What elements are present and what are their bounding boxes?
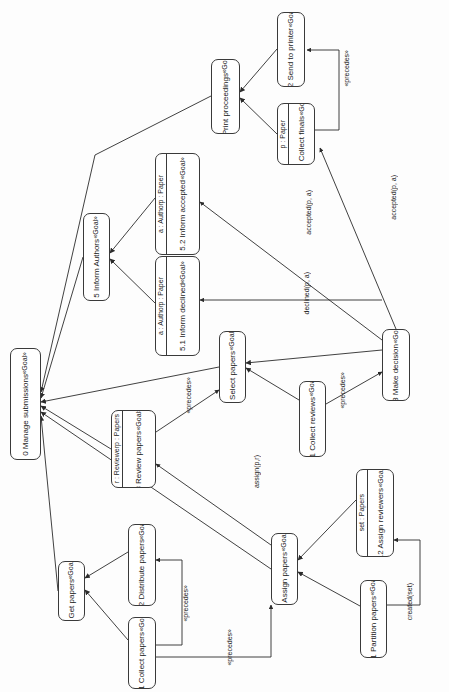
node-title: 5 Inform Authors <box>92 239 101 298</box>
goal-node-4-1-collect-reviews[interactable]: «Goal» 4.1 Collect reviews <box>299 381 326 457</box>
goal-node-2-2-assign-reviewers[interactable]: «Goal» 2.2 Assign reviewers set : Papers <box>356 469 394 557</box>
node-title: 4.1 Collect reviews <box>308 397 317 457</box>
goal-node-6-2-send-to-printer[interactable]: «Goal» 6.2 Send to printer <box>277 12 305 87</box>
node-attributes: p : Paper a : Author <box>156 154 167 254</box>
node-stereotype: «Goal» <box>392 329 400 344</box>
node-title: 2.1 Partition papers <box>369 596 378 658</box>
node-attribute: a : Author <box>157 305 165 335</box>
node-stereotype: «Goal» <box>138 524 146 539</box>
edge-accepted-to-g52 <box>200 202 382 340</box>
diagram-canvas: «Goal» 0 Manage submissions «Goal» 5 Inf… <box>0 0 449 692</box>
node-stereotype: «Goal» <box>138 617 146 632</box>
edge-g22-to-g2 <box>298 500 356 560</box>
edge-label-precedes-1-1-2: «precedes» <box>226 629 233 666</box>
node-header: «Goal» 6.2 Send to printer <box>278 13 304 86</box>
node-stereotype: «Goal» <box>21 352 29 375</box>
node-attribute: p : Paper <box>279 120 287 148</box>
node-stereotype: «Goal» <box>298 103 306 116</box>
node-stereotype: «Goal» <box>67 561 75 579</box>
node-attribute: p : Paper <box>157 175 165 203</box>
goal-node-1-1-collect-papers[interactable]: «Goal» 1.1 Collect papers <box>128 617 156 689</box>
goal-node-2-assign-papers[interactable]: «Goal» 2 Assign papers <box>271 533 298 605</box>
edge-label-precedes-1-1-1-2: «precedes» <box>182 585 189 622</box>
goal-node-1-2-distribute-papers[interactable]: «Goal» 1.2 Distribute papers <box>128 524 156 606</box>
edge-g4-to-g0 <box>41 367 219 402</box>
node-stereotype: «Goal» <box>377 469 385 488</box>
goal-node-6-print-proceedings[interactable]: «Goal» 6 Print proceedings <box>211 59 240 134</box>
goal-node-6-1-collect-finals[interactable]: «Goal» 6.1 Collect finals p : Paper <box>277 103 315 165</box>
goal-node-5-inform-authors[interactable]: «Goal» 5 Inform Authors <box>83 213 110 301</box>
goal-node-4-select-papers[interactable]: «Goal» 4 Select papers <box>219 331 246 403</box>
edge-label-precedes-4-1-4-3: «precedes» <box>339 372 346 409</box>
edge-g61-to-g6 <box>240 98 277 134</box>
edge-g52-to-g5 <box>110 198 155 253</box>
edge-g2-to-g0 <box>41 412 271 569</box>
node-header: «Goal» 5 Inform Authors <box>84 214 109 300</box>
edge-label-declined-to-5-1: declined(p, a) <box>303 272 310 314</box>
node-stereotype: «Goal» <box>221 59 229 73</box>
node-title: 4.3 Make decision <box>391 344 400 401</box>
goal-node-5-2-inform-accepted[interactable]: «Goal» 5.2 Inform accepted p : Paper a :… <box>155 153 200 255</box>
node-stereotype: «Goal» <box>280 533 288 552</box>
node-header: «Goal» 4.3 Make decision <box>383 330 409 400</box>
node-header: «Goal» 3 Review papers <box>123 411 155 487</box>
goal-node-2-1-partition-papers[interactable]: «Goal» 2.1 Partition papers <box>360 580 387 658</box>
node-title: 1.2 Distribute papers <box>137 539 146 606</box>
node-title: 2.2 Assign reviewers <box>376 488 385 557</box>
node-header: «Goal» 5.2 Inform accepted <box>167 154 199 254</box>
node-title: 1.1 Collect papers <box>137 632 146 689</box>
edge-label-created-set: created(set) <box>406 583 413 620</box>
edge-label-precedes-6-1-6-2: «precedes» <box>343 50 350 87</box>
node-header: «Goal» 4 Select papers <box>220 332 245 402</box>
edge-g12-to-g1 <box>85 552 128 578</box>
edge-g41-to-g4 <box>246 368 299 400</box>
node-title: 6.1 Collect finals <box>297 116 306 165</box>
node-stereotype: «Goal» <box>179 261 187 284</box>
node-header: «Goal» 6.1 Collect finals <box>289 104 314 164</box>
goal-node-5-1-inform-declined[interactable]: «Goal» 5.1 Inform declined p : Paper a :… <box>155 256 200 356</box>
node-attributes: set : Papers <box>357 470 368 556</box>
node-title: 3 Review papers <box>134 431 143 489</box>
goal-node-4-3-make-decision[interactable]: «Goal» 4.3 Make decision <box>382 329 410 401</box>
node-header: «Goal» 1.2 Distribute papers <box>129 525 155 605</box>
node-title: 2 Assign papers <box>280 552 289 605</box>
node-header: «Goal» 2 Assign papers <box>272 534 297 604</box>
edge-label-accepted-to-5-2: accepted(p, a) <box>305 190 312 235</box>
edge-precedes-g11-g12 <box>156 560 182 645</box>
goal-node-0-manage-submissions[interactable]: «Goal» 0 Manage submissions <box>10 348 41 460</box>
edge-g21-to-g2 <box>298 572 360 606</box>
node-attributes: p : Paper a : Author <box>156 257 167 355</box>
node-title: 1 Get papers <box>67 579 76 621</box>
node-title: 6 Print proceedings <box>221 73 230 134</box>
goal-node-1-get-papers[interactable]: «Goal» 1 Get papers <box>58 561 85 621</box>
node-header: «Goal» 2.2 Assign reviewers <box>368 470 393 556</box>
goal-node-3-review-papers[interactable]: «Goal» 3 Review papers p : Papers r : Re… <box>111 410 156 488</box>
node-title: 6.2 Send to printer <box>286 28 295 87</box>
node-attribute: set : Papers <box>358 494 366 531</box>
edge-g62-to-g6 <box>240 49 277 92</box>
node-stereotype: «Goal» <box>228 331 236 351</box>
node-title: 0 Manage submissions <box>21 374 30 456</box>
node-header: «Goal» 1.1 Collect papers <box>129 618 155 688</box>
edge-label-accepted-to-6-1: accepted(p, a) <box>390 175 397 220</box>
node-header: «Goal» 4.1 Collect reviews <box>300 382 325 456</box>
node-header: «Goal» 5.1 Inform declined <box>167 257 199 355</box>
node-attribute: r : Reviewer <box>113 446 121 483</box>
node-header: «Goal» 2.1 Partition papers <box>361 581 386 657</box>
node-header: «Goal» 1 Get papers <box>59 562 84 620</box>
edge-g43-to-g4 <box>246 350 382 363</box>
node-stereotype: «Goal» <box>135 410 143 431</box>
edge-label-precedes-3-4: «precedes» <box>185 377 192 414</box>
edge-g11-to-g1 <box>85 590 128 640</box>
node-attributes: p : Papers r : Reviewer <box>112 411 123 487</box>
node-title: 4 Select papers <box>228 351 237 404</box>
node-header: «Goal» 6 Print proceedings <box>212 60 239 133</box>
node-attribute: p : Papers <box>113 414 121 446</box>
edge-g1-to-g0 <box>41 416 58 591</box>
node-title: 5.1 Inform declined <box>178 283 187 351</box>
edge-g5-to-g0 <box>41 257 83 398</box>
node-stereotype: «Goal» <box>369 580 377 596</box>
edge-precedes-g11-g2 <box>156 605 271 657</box>
node-attribute: a : Author <box>157 203 165 233</box>
edge-precedes-g41-g43 <box>326 372 382 404</box>
